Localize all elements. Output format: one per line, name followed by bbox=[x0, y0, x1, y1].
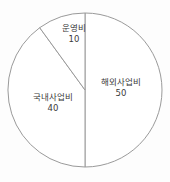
pie-label-operating-name: 운영비 bbox=[46, 24, 102, 34]
pie-chart-figure: 운영비 10 해외사업비 50 국내사업비 40 bbox=[0, 0, 170, 182]
pie-label-domestic-name: 국내사업비 bbox=[24, 93, 82, 103]
pie-label-domestic-value: 40 bbox=[24, 104, 82, 114]
pie-label-operating: 운영비 10 bbox=[46, 24, 102, 44]
pie-label-overseas-value: 50 bbox=[92, 89, 150, 99]
pie-label-operating-value: 10 bbox=[46, 35, 102, 45]
pie-label-overseas: 해외사업비 50 bbox=[92, 78, 150, 98]
pie-label-overseas-name: 해외사업비 bbox=[92, 78, 150, 88]
pie-label-domestic: 국내사업비 40 bbox=[24, 93, 82, 113]
